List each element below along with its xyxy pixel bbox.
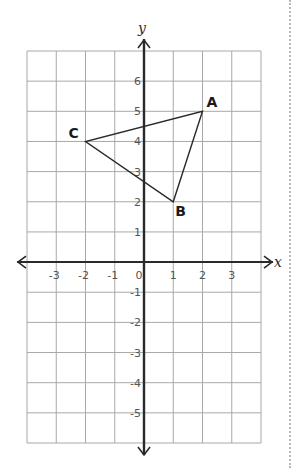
y-tick-label: -2 [130, 316, 141, 329]
point-label-a: A [207, 94, 218, 110]
dotted-margin-line [289, 0, 291, 468]
y-axis-label: y [137, 20, 147, 36]
point-label-b: B [175, 203, 186, 219]
x-tick-label: -3 [49, 269, 60, 282]
x-tick-label: -1 [107, 269, 118, 282]
x-tick-label: 1 [170, 269, 177, 282]
y-tick-label: -4 [130, 377, 141, 390]
x-axis-label: x [274, 254, 282, 270]
y-tick-label: 1 [134, 226, 141, 239]
y-tick-label: 5 [134, 105, 141, 118]
x-tick-label: 3 [228, 269, 235, 282]
y-tick-label: 6 [134, 75, 141, 88]
y-tick-label: 4 [134, 135, 141, 148]
x-tick-label: 0 [136, 269, 143, 282]
y-tick-label: -1 [130, 286, 141, 299]
x-tick-label: 2 [199, 269, 206, 282]
y-tick-label: -5 [130, 407, 141, 420]
y-tick-label: 2 [134, 196, 141, 209]
x-tick-label: -2 [78, 269, 89, 282]
point-label-c: C [69, 125, 79, 141]
coordinate-plane: xy -3-2-10123654321-1-2-3-4-5 ABC [0, 0, 293, 468]
y-tick-label: -3 [130, 347, 141, 360]
